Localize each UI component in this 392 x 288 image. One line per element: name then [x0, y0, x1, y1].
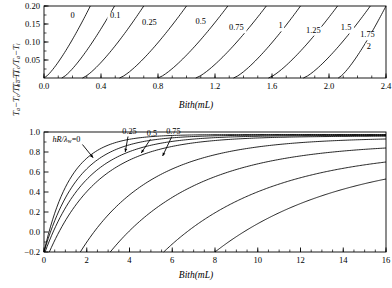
curves-bottom [44, 135, 386, 253]
y-tick-label-bottom: 0.2 [29, 207, 40, 217]
curve-bottom-0.5 [45, 136, 386, 253]
contour-label-top-1.75: 1.75 [360, 30, 375, 39]
curves-top [44, 6, 386, 78]
x-tick-label-bottom: 4 [127, 255, 132, 265]
chart-panel-top: Ta−Tc/Ta−Ti 0.00.40.81.21.62.02.40.050.1… [0, 0, 392, 126]
curve-top-1.75 [303, 6, 370, 78]
axes-bottom: 0246810121416−0.20.00.20.40.60.81.0 [24, 127, 391, 265]
plot-area-bottom: 0246810121416−0.20.00.20.40.60.81.0 hR/λ… [0, 126, 392, 288]
y-tick-label-bottom: 0.0 [29, 227, 40, 237]
curve-bottom-0.25 [44, 135, 386, 252]
curve-top-1.5 [268, 6, 337, 78]
y-tick-label-bottom: 0.4 [29, 187, 40, 197]
figure-container: Ta−Tc/Ta−Ti 0.00.40.81.21.62.02.40.050.1… [0, 0, 392, 288]
contour-label-top-0: 0 [70, 11, 74, 20]
curve-bottom-0.75 [49, 136, 386, 252]
plot-frame-top [44, 6, 386, 78]
x-tick-label-top: 2.0 [324, 81, 335, 91]
x-tick-label-top: 0.4 [96, 81, 107, 91]
chart-panel-bottom: 0246810121416−0.20.00.20.40.60.81.0 hR/λ… [0, 126, 392, 288]
x-tick-label-top: 0.8 [153, 81, 164, 91]
contour-label-top-0.5: 0.5 [196, 17, 206, 26]
y-tick-label-top: 0.05 [25, 55, 40, 65]
curve-top-1.25 [234, 6, 301, 78]
y-tick-label-bottom: −0.2 [24, 247, 40, 257]
curve-bottom-3 [215, 179, 386, 252]
annotation-label-0.5: 0.5 [147, 129, 157, 138]
annotation-label-0.25: 0.25 [122, 127, 136, 136]
y-tick-label-top: 0.20 [25, 1, 40, 11]
x-tick-label-top: 1.6 [267, 81, 278, 91]
contour-label-top-0.75: 0.75 [229, 23, 244, 32]
curve-top-0 [44, 6, 90, 78]
annotation-label-hR-lambda: hR/λw=0 [53, 135, 81, 145]
y-tick-label-bottom: 0.8 [29, 147, 40, 157]
axes-top: 0.00.40.81.21.62.02.40.050.100.150.20 [25, 1, 392, 91]
x-axis-label-top: Bith(mL) [0, 100, 392, 110]
contour-label-top-0.25: 0.25 [142, 18, 157, 27]
x-tick-label-top: 2.4 [381, 81, 392, 91]
contour-label-top-2: 2 [367, 42, 371, 51]
contour-label-top-1.5: 1.5 [341, 23, 351, 32]
x-tick-label-bottom: 14 [339, 255, 348, 265]
annotation-arrowhead [124, 149, 127, 152]
curve-bottom-1 [80, 139, 386, 252]
x-tick-label-top: 0.0 [39, 81, 50, 91]
curve-top-0.75 [158, 6, 228, 78]
y-tick-label-top: 0.10 [25, 37, 40, 47]
y-tick-label-bottom: 1.0 [29, 127, 40, 137]
x-tick-label-bottom: 10 [253, 255, 262, 265]
x-tick-label-bottom: 8 [213, 255, 217, 265]
annotation-label-0.75: 0.75 [166, 127, 180, 136]
curve-bottom-1.5 [110, 148, 386, 252]
curve-top-0.5 [120, 6, 187, 78]
x-tick-label-bottom: 16 [382, 255, 391, 265]
y-tick-label-top: 0.15 [25, 19, 40, 29]
contour-label-top-1: 1 [278, 21, 282, 30]
curve-bottom-2 [164, 162, 386, 252]
x-tick-label-bottom: 6 [170, 255, 175, 265]
x-tick-label-bottom: 0 [42, 255, 46, 265]
x-tick-label-bottom: 2 [85, 255, 89, 265]
contour-label-top-1.25: 1.25 [306, 26, 321, 35]
x-axis-label-bottom: Bith(mL) [0, 270, 392, 280]
y-tick-label-bottom: 0.6 [29, 167, 40, 177]
x-tick-label-bottom: 12 [296, 255, 305, 265]
y-axis-label-bottom: Ta−Tc/Ta−Ti [11, 71, 21, 116]
curve-top-1 [196, 6, 267, 78]
x-tick-label-top: 1.2 [210, 81, 221, 91]
contour-label-top-0.1: 0.1 [110, 11, 120, 20]
